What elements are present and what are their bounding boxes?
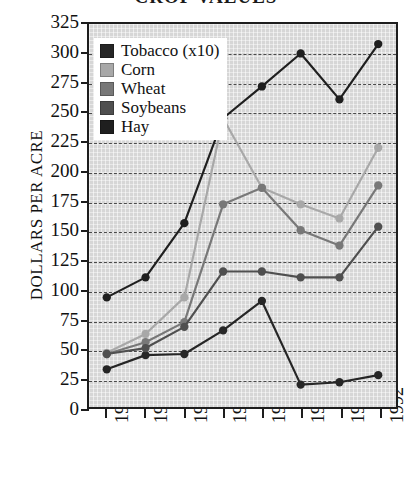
data-point <box>297 226 305 234</box>
x-axis-tick-mark <box>144 409 146 418</box>
data-point <box>141 330 149 338</box>
legend-item: Tobacco (x10) <box>100 41 219 60</box>
data-point <box>335 95 343 103</box>
legend-swatch-icon <box>100 120 114 134</box>
data-point <box>374 371 382 379</box>
data-point <box>103 365 111 373</box>
legend-swatch-icon <box>100 101 114 115</box>
legend-item-label: Soybeans <box>121 99 186 116</box>
y-axis-tick-label: 125 <box>27 250 79 269</box>
legend-item-label: Corn <box>121 61 155 78</box>
data-point <box>141 351 149 359</box>
x-axis-tick-mark <box>341 409 343 418</box>
data-point <box>258 297 266 305</box>
data-point <box>219 267 227 275</box>
data-point <box>374 223 382 231</box>
y-axis-tick-label: 75 <box>27 310 79 329</box>
x-axis-tick-mark <box>105 409 107 418</box>
legend-item: Hay <box>100 117 219 136</box>
data-point <box>335 273 343 281</box>
y-axis-tick-label: 0 <box>27 399 79 418</box>
data-point <box>297 200 305 208</box>
legend-item: Corn <box>100 60 219 79</box>
series-line <box>107 118 378 353</box>
data-point <box>335 214 343 222</box>
data-point <box>103 350 111 358</box>
y-axis-tick-label: 325 <box>27 12 79 31</box>
x-axis-tick-mark <box>184 409 186 418</box>
data-point <box>219 200 227 208</box>
legend-swatch-icon <box>100 44 114 58</box>
legend-item-label: Hay <box>121 118 149 135</box>
y-axis-title: DOLLARS PER ACRE <box>27 85 47 345</box>
chart-title: CROP VALUES <box>0 0 412 8</box>
data-point <box>258 267 266 275</box>
data-point <box>180 350 188 358</box>
data-point <box>374 40 382 48</box>
data-point <box>374 181 382 189</box>
data-point <box>180 219 188 227</box>
data-point <box>180 323 188 331</box>
y-axis-tick-label: 25 <box>27 369 79 388</box>
x-axis-tick-mark <box>380 409 382 418</box>
legend-item: Soybeans <box>100 98 219 117</box>
data-point <box>141 273 149 281</box>
y-axis-tick-mark <box>81 409 89 411</box>
y-axis-tick-label: 225 <box>27 131 79 150</box>
legend-item-label: Wheat <box>121 80 165 97</box>
data-point <box>374 144 382 152</box>
data-point <box>141 344 149 352</box>
legend-item: Wheat <box>100 79 219 98</box>
data-point <box>297 49 305 57</box>
y-axis-tick-label: 300 <box>27 42 79 61</box>
chart-figure: CROP VALUES DOLLARS PER ACRE 32530027525… <box>0 0 412 482</box>
legend-item-label: Tobacco (x10) <box>121 42 219 59</box>
y-axis-tick-label: 200 <box>27 161 79 180</box>
data-point <box>335 378 343 386</box>
series-line <box>107 185 378 354</box>
x-axis-tick-mark <box>301 409 303 418</box>
data-point <box>258 82 266 90</box>
data-point <box>219 326 227 334</box>
data-point <box>297 380 305 388</box>
x-axis-tick-mark <box>223 409 225 418</box>
legend-swatch-icon <box>100 63 114 77</box>
chart-title-clipped: CROP VALUES <box>0 0 412 9</box>
series-corn <box>103 114 383 357</box>
y-axis-tick-label: 100 <box>27 280 79 299</box>
y-axis-tick-label: 275 <box>27 72 79 91</box>
data-point <box>335 241 343 249</box>
data-point <box>103 293 111 301</box>
y-axis-tick-label: 150 <box>27 220 79 239</box>
legend-swatch-icon <box>100 82 114 96</box>
data-point <box>297 273 305 281</box>
chart-legend: Tobacco (x10)CornWheatSoybeansHay <box>94 38 227 140</box>
data-point <box>258 184 266 192</box>
y-axis-tick-label: 250 <box>27 101 79 120</box>
y-axis-tick-label: 175 <box>27 191 79 210</box>
y-axis-tick-label: 50 <box>27 339 79 358</box>
x-axis-tick-mark <box>262 409 264 418</box>
data-point <box>180 293 188 301</box>
